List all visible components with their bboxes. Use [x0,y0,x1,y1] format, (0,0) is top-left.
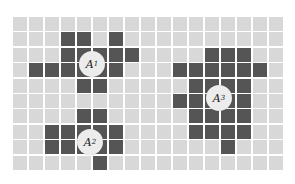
empty-cell [125,32,139,46]
empty-cell [45,94,59,108]
filled-cell [221,63,235,77]
filled-cell [221,48,235,62]
filled-cell [189,109,203,123]
empty-cell [61,79,75,93]
empty-cell [45,109,59,123]
marker-label: A [213,92,221,105]
empty-cell [269,48,283,62]
empty-cell [29,48,43,62]
filled-cell [237,79,251,93]
empty-cell [269,125,283,139]
empty-cell [173,79,187,93]
empty-cell [125,17,139,31]
empty-cell [157,94,171,108]
filled-cell [237,125,251,139]
empty-cell [125,156,139,170]
empty-cell [189,32,203,46]
empty-cell [253,32,267,46]
empty-cell [61,17,75,31]
empty-cell [173,48,187,62]
empty-cell [173,125,187,139]
empty-cell [93,17,107,31]
empty-cell [29,94,43,108]
empty-cell [29,125,43,139]
filled-cell [205,63,219,77]
empty-cell [141,32,155,46]
empty-cell [141,63,155,77]
empty-cell [109,109,123,123]
empty-cell [141,17,155,31]
empty-cell [189,140,203,154]
filled-cell [109,63,123,77]
empty-cell [253,17,267,31]
empty-cell [173,140,187,154]
empty-cell [13,79,27,93]
empty-cell [29,17,43,31]
filled-cell [45,140,59,154]
empty-cell [221,17,235,31]
empty-cell [253,48,267,62]
filled-cell [109,48,123,62]
filled-cell [237,109,251,123]
empty-cell [269,156,283,170]
empty-cell [269,109,283,123]
empty-cell [29,32,43,46]
filled-cell [93,109,107,123]
empty-cell [77,17,91,31]
filled-cell [45,63,59,77]
filled-cell [93,156,107,170]
empty-cell [45,79,59,93]
empty-cell [13,156,27,170]
empty-cell [109,156,123,170]
filled-cell [61,140,75,154]
empty-cell [173,17,187,31]
empty-cell [93,32,107,46]
empty-cell [141,109,155,123]
empty-cell [269,63,283,77]
empty-cell [61,109,75,123]
filled-cell [205,109,219,123]
empty-cell [157,17,171,31]
filled-cell [61,125,75,139]
filled-cell [45,125,59,139]
filled-cell [61,32,75,46]
marker-label: A [84,136,92,149]
empty-cell [237,156,251,170]
empty-cell [189,48,203,62]
empty-cell [141,140,155,154]
empty-cell [253,79,267,93]
filled-cell [109,125,123,139]
empty-cell [237,140,251,154]
marker-label: A [86,58,94,71]
filled-cell [205,48,219,62]
empty-cell [141,156,155,170]
empty-cell [13,32,27,46]
marker-subscript: 1 [94,60,98,68]
filled-cell [173,63,187,77]
empty-cell [45,156,59,170]
filled-cell [237,63,251,77]
empty-cell [13,140,27,154]
empty-cell [253,125,267,139]
empty-cell [253,94,267,108]
empty-cell [269,79,283,93]
empty-cell [93,94,107,108]
filled-cell [237,94,251,108]
filled-cell [77,32,91,46]
empty-cell [29,140,43,154]
empty-cell [13,48,27,62]
empty-cell [253,156,267,170]
empty-cell [45,32,59,46]
filled-cell [189,94,203,108]
empty-cell [141,94,155,108]
empty-cell [205,140,219,154]
empty-cell [157,63,171,77]
filled-cell [61,48,75,62]
filled-cell [237,48,251,62]
empty-cell [269,32,283,46]
empty-cell [125,94,139,108]
empty-cell [157,109,171,123]
filled-cell [221,109,235,123]
empty-cell [173,156,187,170]
empty-cell [157,125,171,139]
